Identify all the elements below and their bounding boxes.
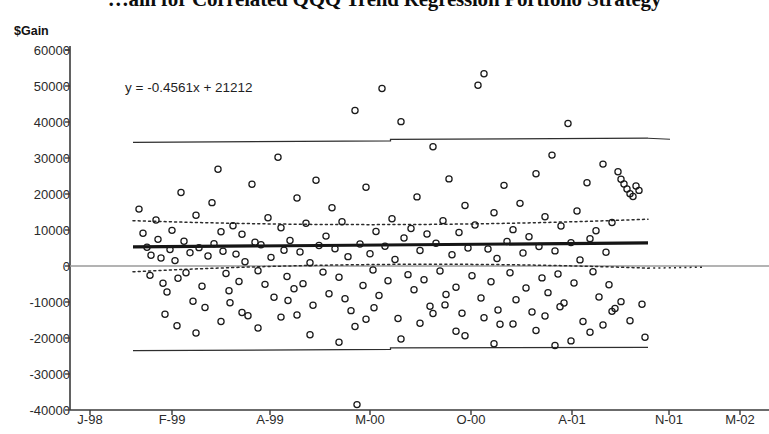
scatter-point [252, 239, 258, 245]
scatter-point [491, 210, 497, 216]
scatter-point [587, 329, 593, 335]
scatter-point [227, 300, 233, 306]
scatter-point [615, 169, 621, 175]
scatter-point [481, 315, 487, 321]
y-axis-tick-label: 30000 [4, 151, 70, 166]
scatter-point [148, 252, 154, 258]
scatter-point [187, 250, 193, 256]
scatter-point [427, 303, 433, 309]
scatter-point [501, 182, 507, 188]
scatter-point [600, 322, 606, 328]
scatter-point [326, 291, 332, 297]
scatter-point [385, 278, 391, 284]
scatter-point [178, 189, 184, 195]
scatter-point [587, 236, 593, 242]
scatter-point [249, 181, 255, 187]
y-axis-tick-label: 50000 [4, 79, 70, 94]
scatter-point [242, 259, 248, 265]
scatter-point [491, 341, 497, 347]
scatter-point [565, 120, 571, 126]
scatter-point [233, 251, 239, 257]
scatter-point [513, 297, 519, 303]
scatter-point [196, 245, 202, 251]
scatter-point [443, 291, 449, 297]
scatter-point [414, 194, 420, 200]
y-axis-tick-label: -40000 [4, 403, 70, 418]
scatter-point [181, 238, 187, 244]
scatter-point [294, 195, 300, 201]
scatter-point [529, 309, 535, 315]
scatter-point [545, 290, 551, 296]
scatter-point [440, 218, 446, 224]
scatter-point [609, 219, 615, 225]
scatter-point [485, 246, 491, 252]
scatter-point [552, 248, 558, 254]
scatter-point [621, 181, 627, 187]
scatter-point [169, 227, 175, 233]
scatter-point [370, 267, 376, 273]
lower-prediction-band [133, 347, 648, 350]
scatter-point [510, 321, 516, 327]
upper-prediction-band [133, 138, 648, 142]
scatter-point [211, 241, 217, 247]
scatter-point [376, 292, 382, 298]
scatter-point [472, 222, 478, 228]
scatter-point [398, 336, 404, 342]
scatter-point [348, 308, 354, 314]
scatter-point [209, 200, 215, 206]
scatter-point [218, 229, 224, 235]
scatter-point [639, 301, 645, 307]
scatter-point [352, 107, 358, 113]
scatter-point [593, 228, 599, 234]
scatter-point [481, 71, 487, 77]
scatter-point [523, 285, 529, 291]
scatter-point [417, 320, 423, 326]
scatter-point [526, 234, 532, 240]
y-axis-tick-label: -10000 [4, 295, 70, 310]
scatter-point [389, 216, 395, 222]
scatter-point [590, 269, 596, 275]
y-axis-tick-label: 10000 [4, 223, 70, 238]
lower-confidence-band [133, 264, 648, 272]
scatter-point [642, 334, 648, 340]
scatter-point [174, 323, 180, 329]
scatter-point [183, 270, 189, 276]
scatter-point [218, 318, 224, 324]
scatter-point [557, 304, 563, 310]
scatter-point [633, 183, 639, 189]
scatter-point [291, 286, 297, 292]
scatter-point [202, 304, 208, 310]
scatter-point [281, 247, 287, 253]
scatter-point [574, 208, 580, 214]
scatter-point [430, 310, 436, 316]
scatter-point [465, 245, 471, 251]
scatter-point [303, 220, 309, 226]
scatter-point [561, 300, 567, 306]
x-axis-tick-label: M-02 [725, 412, 755, 427]
scatter-point [255, 268, 261, 274]
y-axis-tick-labels: 6000050000400003000020000100000-10000-20… [0, 0, 70, 434]
scatter-point [392, 256, 398, 262]
scatter-point [552, 342, 558, 348]
chart-root: …ain for Correlated QQQ Trend Regression… [0, 0, 769, 434]
x-axis-tick-label: A-01 [558, 412, 585, 427]
scatter-point [494, 255, 500, 261]
y-axis-tick-label: 60000 [4, 43, 70, 58]
scatter-point [636, 187, 642, 193]
x-axis-tick-label: O-00 [457, 412, 486, 427]
scatter-point [462, 333, 468, 339]
scatter-point [558, 223, 564, 229]
scatter-point [239, 231, 245, 237]
scatter-point [367, 251, 373, 257]
upper-prediction-band-extension [648, 138, 670, 139]
scatter-point [542, 313, 548, 319]
scatter-point [236, 278, 242, 284]
scatter-point [568, 338, 574, 344]
scatter-point [360, 282, 366, 288]
scatter-point [345, 254, 351, 260]
scatter-point [401, 235, 407, 241]
scatter-point [332, 246, 338, 252]
scatter-point [437, 268, 443, 274]
scatter-point [316, 242, 322, 248]
scatter-point [609, 308, 615, 314]
